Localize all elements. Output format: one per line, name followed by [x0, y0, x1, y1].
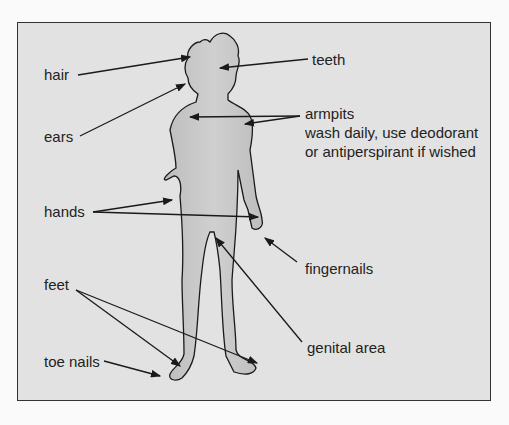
label-hair: hair — [44, 66, 69, 84]
label-feet: feet — [44, 276, 69, 294]
label-armpits: armpits — [305, 105, 354, 123]
label-fingernails: fingernails — [305, 260, 373, 278]
label-hands: hands — [44, 203, 85, 221]
body-outline — [164, 33, 262, 380]
label-teeth: teeth — [312, 51, 345, 69]
label-armpits-note-2: or antiperspirant if wished — [305, 143, 476, 161]
label-genital-area: genital area — [307, 339, 385, 357]
label-toe-nails: toe nails — [44, 353, 100, 371]
label-armpits-note-1: wash daily, use deodorant — [305, 124, 478, 142]
label-ears: ears — [44, 128, 73, 146]
